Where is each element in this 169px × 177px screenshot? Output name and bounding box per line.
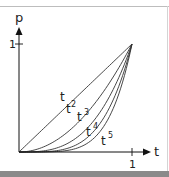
label-t2-exp: 2 [71, 100, 76, 109]
power-curves-diagram: 1 p 1 t t t 2 t 3 t 4 t 5 [0, 0, 169, 177]
label-t3-exp: 3 [84, 108, 89, 117]
curves [19, 44, 132, 152]
label-t4: t [86, 125, 91, 139]
x-axis-arrow-icon [143, 149, 151, 156]
label-t5: t [101, 134, 106, 148]
y-tick-label: 1 [9, 38, 16, 51]
label-t5-exp: 5 [108, 131, 113, 140]
label-t1: t [60, 90, 65, 104]
x-axis-label: t [154, 144, 159, 159]
label-t3: t [77, 110, 82, 124]
y-axis-arrow-icon [16, 27, 23, 35]
x-tick-label: 1 [129, 158, 136, 171]
curve-t1 [19, 44, 132, 152]
label-t4-exp: 4 [93, 122, 98, 131]
y-axis-label: p [15, 10, 23, 25]
